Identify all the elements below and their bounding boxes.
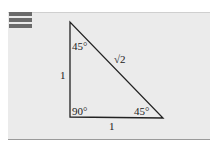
hypotenuse-label: √2	[114, 54, 126, 65]
angle-top-label: 45°	[72, 41, 87, 52]
triangle-diagram	[0, 0, 214, 146]
vertical-leg-label: 1	[60, 70, 66, 81]
angle-bottom-right-label: 45°	[134, 106, 149, 117]
horizontal-leg-label: 1	[109, 121, 115, 132]
angle-right-label: 90°	[72, 106, 87, 117]
